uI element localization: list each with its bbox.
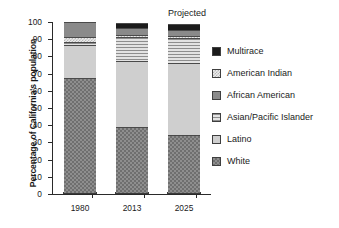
y-tick-30: 30 [48, 142, 52, 143]
x-tick-2 [144, 194, 145, 198]
y-tick-100: 100 [48, 22, 52, 23]
y-tick-80: 80 [48, 56, 52, 57]
segment-1980-white [64, 78, 96, 193]
chart-legend: Multirace American Indian African Americ… [212, 40, 338, 172]
x-axis-label-2025: 2025 [161, 203, 207, 213]
y-tick-label-30: 30 [33, 138, 42, 146]
x-axis-line [52, 194, 211, 195]
y-tick-label-10: 10 [33, 173, 42, 181]
x-tick-3 [196, 194, 197, 198]
y-tick-90: 90 [48, 39, 52, 40]
y-tick-10: 10 [48, 177, 52, 178]
y-tick-label-70: 70 [33, 70, 42, 78]
x-axis-label-2013: 2013 [109, 203, 155, 213]
segment-2025-asian-pacific-islander [168, 38, 200, 63]
y-tick-label-80: 80 [33, 52, 42, 60]
legend-label-asian-pacific-islander: Asian/Pacific Islander [227, 113, 313, 122]
y-tick-label-20: 20 [33, 156, 42, 164]
y-axis-line [52, 22, 53, 195]
segment-2013-asian-pacific-islander [116, 37, 148, 61]
x-tick-1 [92, 194, 93, 198]
projected-annotation: Projected [168, 8, 206, 18]
segment-2013-multirace [116, 23, 148, 28]
legend-label-american-indian: American Indian [227, 69, 292, 78]
segment-1980-african-american [64, 22, 96, 38]
y-tick-label-100: 100 [28, 18, 42, 26]
bar-2013[interactable] [115, 192, 149, 194]
y-tick-60: 60 [48, 91, 52, 92]
legend-item-multirace[interactable]: Multirace [212, 40, 338, 62]
segment-1980-american-indian [64, 37, 96, 41]
segment-1980-asian-pacific-islander [64, 42, 96, 45]
plot-area: 0 10 20 30 40 50 60 70 80 90 100 [52, 22, 210, 194]
asian-pacific-islander-swatch [212, 113, 221, 122]
legend-item-african-american[interactable]: African American [212, 84, 338, 106]
y-tick-20: 20 [48, 160, 52, 161]
y-tick-70: 70 [48, 74, 52, 75]
y-tick-50: 50 [48, 108, 52, 109]
segment-2025-multirace [168, 24, 200, 30]
legend-item-asian-pacific-islander[interactable]: Asian/Pacific Islander [212, 106, 338, 128]
y-tick-label-50: 50 [33, 104, 42, 112]
y-tick-0: 0 [48, 194, 52, 195]
y-tick-40: 40 [48, 125, 52, 126]
segment-2013-white [116, 127, 148, 193]
african-american-swatch [212, 91, 221, 100]
bar-1980[interactable] [63, 192, 97, 194]
segment-1980-latino [64, 45, 96, 78]
multirace-swatch [212, 47, 221, 56]
segment-2025-african-american [168, 30, 200, 36]
segment-2013-african-american [116, 28, 148, 35]
segment-2025-white [168, 135, 200, 194]
segment-2025-american-indian [168, 36, 200, 39]
legend-item-american-indian[interactable]: American Indian [212, 62, 338, 84]
legend-item-white[interactable]: White [212, 150, 338, 172]
legend-label-white: White [227, 157, 250, 166]
legend-label-african-american: African American [227, 91, 295, 100]
latino-swatch [212, 135, 221, 144]
chart-figure: Percentage of California's population Pr… [0, 0, 339, 228]
bar-2025[interactable] [167, 192, 201, 194]
american-indian-swatch [212, 69, 221, 78]
y-tick-label-40: 40 [33, 121, 42, 129]
y-tick-label-60: 60 [33, 87, 42, 95]
y-tick-label-0: 0 [37, 190, 42, 198]
white-swatch [212, 157, 221, 166]
x-axis-label-1980: 1980 [57, 203, 103, 213]
segment-2013-american-indian [116, 35, 148, 38]
segment-2013-latino [116, 61, 148, 126]
y-tick-label-90: 90 [33, 35, 42, 43]
segment-2025-latino [168, 63, 200, 134]
legend-item-latino[interactable]: Latino [212, 128, 338, 150]
legend-label-latino: Latino [227, 135, 252, 144]
legend-label-multirace: Multirace [227, 47, 264, 56]
